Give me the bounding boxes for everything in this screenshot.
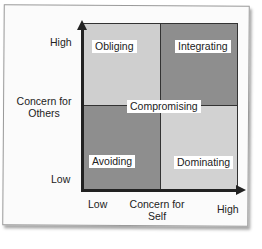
quadrant-integrating bbox=[161, 23, 238, 106]
grid-right-border bbox=[237, 23, 238, 190]
y-axis bbox=[81, 26, 84, 191]
quadrant-obliging bbox=[82, 23, 161, 106]
y-axis-label-line2: Others bbox=[14, 107, 74, 120]
x-axis-label-line2: Self bbox=[127, 210, 187, 223]
arrow-right-icon bbox=[236, 185, 246, 195]
x-axis-low: Low bbox=[88, 198, 107, 211]
x-axis bbox=[81, 189, 238, 192]
y-axis-high: High bbox=[50, 36, 72, 49]
label-compromising: Compromising bbox=[127, 100, 201, 113]
y-axis-low: Low bbox=[51, 173, 70, 186]
label-obliging: Obliging bbox=[92, 40, 137, 53]
arrow-up-icon bbox=[77, 20, 87, 30]
label-avoiding: Avoiding bbox=[89, 155, 135, 168]
label-integrating: Integrating bbox=[175, 40, 231, 53]
label-dominating: Dominating bbox=[174, 156, 233, 169]
x-axis-high: High bbox=[217, 203, 239, 216]
quadrant-dominating bbox=[161, 106, 238, 190]
quadrant-avoiding bbox=[82, 106, 161, 190]
